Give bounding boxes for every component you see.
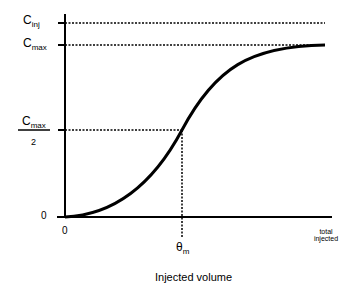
cmax-label: Cmax (23, 37, 47, 49)
half-cmax-denominator: 2 (31, 138, 36, 147)
cinj-label: Cinj (23, 14, 40, 26)
total-injected-label: totalinjected (309, 228, 343, 242)
half-cmax-numerator: Cmax (22, 115, 46, 127)
y-zero-label: 0 (41, 211, 47, 221)
x-axis-title: Injected volume (155, 272, 232, 283)
x-zero-label: 0 (62, 226, 68, 236)
theta-m-label: θm (176, 241, 189, 253)
breakthrough-curve (65, 45, 325, 217)
